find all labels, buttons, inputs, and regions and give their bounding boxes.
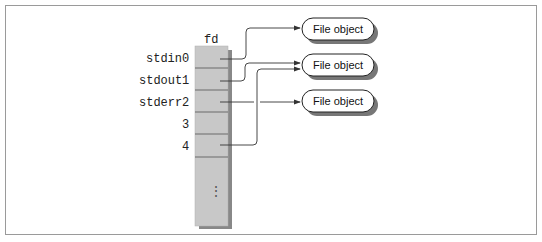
- ellipsis-icon: ⋮: [209, 183, 223, 199]
- row-index-0: 0: [182, 52, 189, 66]
- row-label-stdout: stdout: [139, 74, 182, 88]
- fd-header: fd: [204, 33, 218, 47]
- row-index-3: 3: [182, 118, 189, 132]
- row-label-stdin: stdin: [146, 52, 182, 66]
- file-object-label: File object: [313, 59, 363, 71]
- fd-table: fd ⋮: [195, 33, 232, 229]
- row-index-2: 2: [182, 96, 189, 110]
- file-object-label: File object: [313, 95, 363, 107]
- row-labels: stdin 0 stdout 1 stderr 2 3 4: [139, 52, 189, 154]
- file-object-1: File object: [302, 54, 378, 80]
- row-index-4: 4: [182, 140, 189, 154]
- file-object-2: File object: [302, 90, 378, 116]
- fd-table-diagram: fd ⋮ stdin 0 stdout 1 stderr 2 3 4 File …: [0, 0, 542, 242]
- row-label-stderr: stderr: [139, 96, 182, 110]
- file-object-label: File object: [313, 23, 363, 35]
- row-index-1: 1: [182, 74, 189, 88]
- file-object-0: File object: [302, 18, 378, 44]
